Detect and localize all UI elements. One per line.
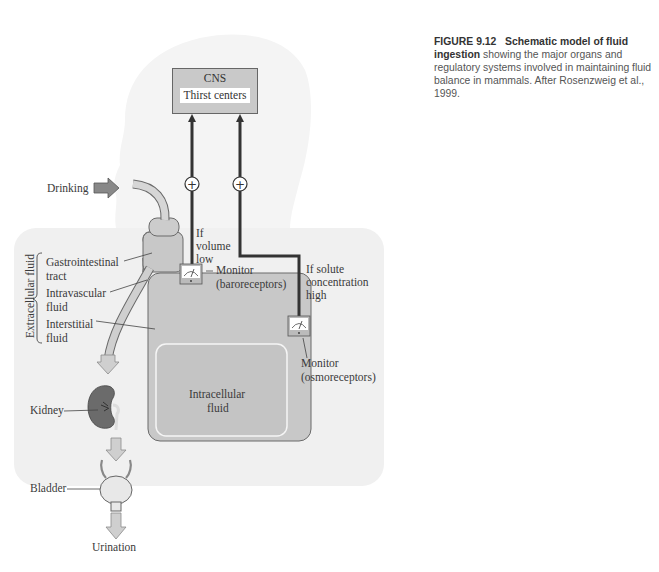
intracellular-label-1: Intracellular [189,388,245,401]
baroreceptor-monitor-label-1: Monitor [216,264,254,277]
figure-caption: FIGURE 9.12 Schematic model of fluid ing… [434,35,659,100]
intravascular-box [143,232,183,272]
baroreceptor-gauge-icon [180,264,202,284]
if-volume-low-1: If [196,227,204,240]
if-solute-high-1: If solute [306,263,344,276]
if-volume-low-3: low [196,253,213,266]
osmoreceptor-monitor-label-2: (osmoreceptors) [301,371,376,384]
osmoreceptor-monitor-label-1: Monitor [301,357,339,370]
baroreceptor-monitor-label-2: (baroreceptors) [216,278,286,291]
bladder-label: Bladder [30,482,66,495]
svg-text:+: + [187,178,197,192]
if-volume-low-2: volume [196,240,231,253]
head-silhouette [114,35,311,235]
gi-tract-label-1: Gastrointestinal [46,256,119,269]
figure-number: FIGURE 9.12 [434,36,496,47]
svg-text:+: + [235,178,245,192]
intravascular-label-1: Intravascular [46,287,106,300]
thirst-centers-label: Thirst centers [180,88,250,103]
cns-title: CNS [173,72,257,84]
urination-arrow-icon [106,513,126,539]
osmoreceptor-gauge-icon [288,316,310,336]
intracellular-label-2: fluid [207,402,229,415]
bladder-icon [100,476,132,504]
if-solute-high-3: high [306,289,326,302]
drinking-label: Drinking [47,182,89,195]
kidney-label: Kidney [30,404,64,417]
cns-box: CNS Thirst centers [172,68,258,114]
gi-tract [149,218,179,236]
interstitial-label-1: Interstitial [46,318,93,331]
gi-tract-label-2: tract [46,270,66,283]
if-solute-high-2: concentration [306,276,369,289]
interstitial-label-2: fluid [46,332,68,345]
intravascular-label-2: fluid [46,301,68,314]
urination-label: Urination [92,541,136,554]
extracellular-fluid-label: Extracellular fluid [24,254,36,338]
